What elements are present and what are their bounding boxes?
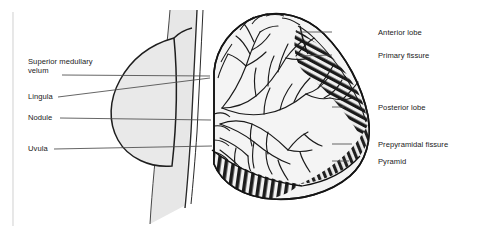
- label-uvula: Uvula: [28, 144, 48, 153]
- label-pyramid: Pyramid: [378, 157, 406, 166]
- label-prepyramidal-fissure: Prepyramidal fissure: [378, 140, 448, 149]
- label-anterior-lobe: Anterior lobe: [378, 28, 422, 37]
- label-primary-fissure: Primary fissure: [378, 51, 429, 60]
- label-superior-medullary-velum-line2: velum: [28, 66, 93, 75]
- label-nodule: Nodule: [28, 113, 52, 122]
- label-lingula: Lingula: [28, 92, 53, 101]
- label-superior-medullary-velum: Superior medullaryvelum: [28, 57, 93, 76]
- label-posterior-lobe: Posterior lobe: [378, 103, 426, 112]
- label-superior-medullary-velum-line1: Superior medullary: [28, 57, 93, 66]
